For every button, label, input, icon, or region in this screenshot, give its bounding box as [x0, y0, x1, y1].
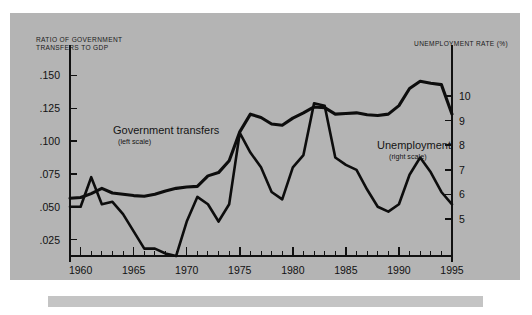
y-axis-left-tick-label: .100: [10, 135, 60, 147]
y-axis-right-tick-label: 6: [459, 188, 465, 200]
x-axis-tick-label: 1965: [122, 264, 145, 276]
x-axis-tick-label: 1990: [387, 264, 410, 276]
series-label-unemployment: Unemployment (right scale): [377, 139, 451, 161]
y-axis-left-tick-label: .025: [10, 234, 60, 246]
x-axis-tick-label: 1995: [440, 264, 463, 276]
y-axis-left-tick-label: .150: [10, 69, 60, 81]
bottom-caption-bar: [48, 296, 483, 307]
series-label-unemployment-main: Unemployment: [377, 139, 451, 151]
y-axis-right-tick-label: 7: [459, 164, 465, 176]
series-label-transfers: Government transfers (left scale): [113, 124, 219, 146]
y-axis-left-tick-label: .075: [10, 168, 60, 180]
y-axis-left-tick-label: .125: [10, 102, 60, 114]
y-axis-right-tick-label: 10: [459, 90, 471, 102]
x-axis-tick-label: 1960: [69, 264, 92, 276]
series-label-transfers-sub: (left scale): [118, 137, 219, 146]
y-axis-right-tick-label: 8: [459, 139, 465, 151]
series-label-transfers-main: Government transfers: [113, 124, 219, 136]
x-axis-tick-label: 1980: [281, 264, 304, 276]
x-axis-tick-label: 1985: [334, 264, 357, 276]
series-label-unemployment-sub: (right scale): [389, 152, 451, 161]
x-axis-tick-label: 1975: [228, 264, 251, 276]
series-group: [70, 81, 452, 256]
y-axis-right-tick-label: 5: [459, 213, 465, 225]
y-axis-left-tick-label: .050: [10, 201, 60, 213]
chart-panel: RATIO OF GOVERNMENT TRANSFERS TO GDP UNE…: [10, 13, 520, 280]
y-axis-right-tick-label: 9: [459, 115, 465, 127]
x-axis-tick-label: 1970: [175, 264, 198, 276]
chart-screenshot: RATIO OF GOVERNMENT TRANSFERS TO GDP UNE…: [0, 0, 532, 315]
